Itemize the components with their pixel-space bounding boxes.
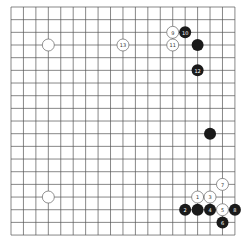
white-stone xyxy=(42,191,54,203)
move-number-label: 2 xyxy=(184,207,187,213)
go-board: 13910111271324586 xyxy=(0,0,251,248)
black-stone-circle xyxy=(192,204,204,216)
white-stone: 11 xyxy=(167,39,179,51)
white-stone: 9 xyxy=(167,26,179,38)
black-stone: 12 xyxy=(192,64,204,76)
stones-layer: 13910111271324586 xyxy=(42,26,241,228)
black-stone: 10 xyxy=(179,26,191,38)
move-number-label: 6 xyxy=(221,220,224,226)
move-number-label: 10 xyxy=(182,30,188,36)
black-stone: 2 xyxy=(179,204,191,216)
black-stone: 6 xyxy=(216,216,228,228)
move-number-label: 3 xyxy=(208,194,211,200)
black-stone-circle xyxy=(192,39,204,51)
black-stone xyxy=(192,204,204,216)
white-stone: 1 xyxy=(192,191,204,203)
move-number-label: 11 xyxy=(170,42,176,48)
black-stone: 4 xyxy=(204,204,216,216)
black-stone-circle xyxy=(204,128,216,140)
move-number-label: 5 xyxy=(221,207,224,213)
white-stone xyxy=(42,39,54,51)
white-stone: 7 xyxy=(216,178,228,190)
white-stone: 5 xyxy=(216,204,228,216)
move-number-label: 12 xyxy=(194,68,200,74)
white-stone: 13 xyxy=(117,39,129,51)
white-stone: 3 xyxy=(204,191,216,203)
move-number-label: 1 xyxy=(196,194,199,200)
black-stone xyxy=(204,128,216,140)
move-number-label: 7 xyxy=(221,182,224,188)
black-stone: 8 xyxy=(229,204,241,216)
move-number-label: 13 xyxy=(120,42,126,48)
white-stone-circle xyxy=(42,39,54,51)
move-number-label: 9 xyxy=(171,30,174,36)
black-stone xyxy=(192,39,204,51)
move-number-label: 4 xyxy=(208,207,211,213)
move-number-label: 8 xyxy=(233,207,236,213)
white-stone-circle xyxy=(42,191,54,203)
